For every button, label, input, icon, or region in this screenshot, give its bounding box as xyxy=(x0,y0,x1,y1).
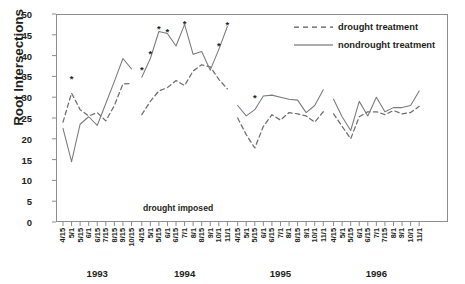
x-axis-tick-label: 6/1 xyxy=(356,228,363,238)
legend-label: drought treatment xyxy=(338,22,418,32)
x-axis-tick-label: 8/15 xyxy=(294,228,301,242)
x-axis-tick-label: 11/1 xyxy=(224,228,231,242)
x-axis-tick-label: 9/1 xyxy=(207,228,214,238)
root-intersections-chart: Root Intersections 50454035302520151050 … xyxy=(0,0,465,284)
x-axis-year-label: 1996 xyxy=(320,268,434,279)
x-axis-tick-label: 7/15 xyxy=(381,228,388,242)
x-axis-tick-label: 4/15 xyxy=(234,228,241,242)
significance-asterisk: * xyxy=(70,73,74,84)
significance-asterisk: * xyxy=(148,48,152,59)
legend-label: nondrought treatment xyxy=(338,40,435,50)
series-drought-treatment xyxy=(142,65,228,115)
x-axis-tick-label: 7/1 xyxy=(181,228,188,238)
significance-asterisk: * xyxy=(226,19,230,30)
series-drought-treatment xyxy=(334,106,420,138)
x-axis-tick-label: 5/1 xyxy=(68,228,75,238)
x-axis-tick-label: 4/15 xyxy=(59,228,66,242)
x-axis-tick-label: 8/1 xyxy=(390,228,397,238)
x-axis-tick-label: 8/1 xyxy=(285,228,292,238)
series-drought-treatment xyxy=(63,83,131,122)
x-axis-tick-label: 10/1 xyxy=(311,228,318,242)
significance-asterisk: * xyxy=(217,40,221,51)
drought-imposed-annotation: drought imposed xyxy=(143,203,213,213)
x-axis-tick-label: 6/15 xyxy=(268,228,275,242)
x-axis-tick-label: 11/1 xyxy=(416,228,423,242)
x-axis-tick-label: 5/15 xyxy=(347,228,354,242)
x-axis-tick-label: 6/15 xyxy=(364,228,371,242)
x-axis-tick-label: 11/1 xyxy=(320,228,327,242)
x-axis-tick-label: 10/1 xyxy=(407,228,414,242)
x-axis-tick-label: 7/15 xyxy=(102,228,109,242)
x-axis-tick-label: 6/1 xyxy=(164,228,171,238)
x-axis-tick-label: 4/15 xyxy=(138,228,145,242)
x-axis-tick-label: 8/1 xyxy=(190,228,197,238)
x-axis-tick-label: 6/1 xyxy=(260,228,267,238)
significance-asterisk: * xyxy=(183,18,187,29)
x-axis-tick-label: 5/1 xyxy=(147,228,154,238)
series-drought-treatment xyxy=(238,112,324,148)
x-axis-tick-label: 4/15 xyxy=(330,228,337,242)
x-axis-tick-label: 5/15 xyxy=(155,228,162,242)
x-axis-tick-label: 5/1 xyxy=(243,228,250,238)
series-nondrought-treatment xyxy=(334,91,420,131)
x-axis-tick-label: 10/1 xyxy=(215,228,222,242)
significance-asterisk: * xyxy=(140,64,144,75)
significance-asterisk: * xyxy=(157,23,161,34)
series-nondrought-treatment xyxy=(142,24,228,77)
x-axis-tick-label: 8/15 xyxy=(198,228,205,242)
x-axis-tick-label: 6/15 xyxy=(94,228,101,242)
significance-asterisk: * xyxy=(166,26,170,37)
x-axis-tick-label: 6/15 xyxy=(172,228,179,242)
series-nondrought-treatment xyxy=(238,90,324,116)
x-axis-tick-label: 7/1 xyxy=(373,228,380,238)
x-axis-tick-label: 8/15 xyxy=(111,228,118,242)
x-axis-tick-label: 6/1 xyxy=(85,228,92,238)
x-axis-tick-label: 9/1 xyxy=(303,228,310,238)
x-axis-tick-label: 5/1 xyxy=(339,228,346,238)
x-axis-tick-label: 5/15 xyxy=(77,228,84,242)
x-axis-tick-label: 5/15 xyxy=(251,228,258,242)
significance-asterisk: * xyxy=(253,92,257,103)
x-axis-tick-label: 10/15 xyxy=(128,228,135,247)
x-axis-tick-label: 9/15 xyxy=(119,228,126,242)
x-axis-tick-label: 7/1 xyxy=(277,228,284,238)
x-axis-tick-label: 9/1 xyxy=(398,228,405,238)
